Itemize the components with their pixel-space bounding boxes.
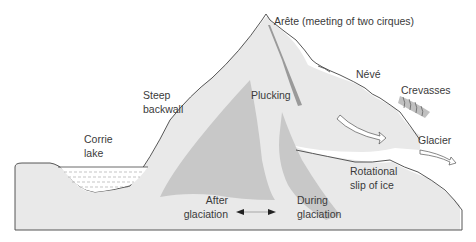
label-rotational: Rotational <box>350 164 397 178</box>
label-after: After <box>176 193 228 207</box>
label-after-glaciation-word: glaciation <box>176 207 228 221</box>
label-backwall: backwall <box>143 102 183 116</box>
label-steep: Steep <box>143 88 183 102</box>
label-neve: Névé <box>356 67 381 81</box>
label-glacier: Glacier <box>418 133 451 147</box>
crevasses-marks <box>398 96 430 118</box>
label-after-glaciation: After glaciation <box>176 193 228 221</box>
label-lake: lake <box>84 146 113 160</box>
ice-flow-arrow-glacier <box>420 150 456 165</box>
label-arete: Arête (meeting of two cirques) <box>274 14 414 28</box>
label-during-glaciation-word: glaciation <box>297 207 341 221</box>
label-during: During <box>297 193 341 207</box>
label-crevasses: Crevasses <box>401 83 451 97</box>
label-during-glaciation: During glaciation <box>297 193 341 221</box>
label-corrie-lake: Corrie lake <box>84 132 113 160</box>
corrie-diagram <box>0 0 476 242</box>
label-slip-of-ice: slip of ice <box>350 178 397 192</box>
label-plucking: Plucking <box>251 88 291 102</box>
label-rotational-slip: Rotational slip of ice <box>350 164 397 192</box>
label-corrie: Corrie <box>84 132 113 146</box>
label-steep-backwall: Steep backwall <box>143 88 183 116</box>
